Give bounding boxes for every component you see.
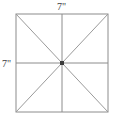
square-diagram-svg — [0, 0, 115, 117]
left-dimension-label: 7" — [2, 58, 11, 69]
top-dimension-label: 7" — [57, 1, 66, 12]
center-dot-icon — [60, 61, 64, 65]
geometry-figure: 7" 7" — [0, 0, 115, 117]
